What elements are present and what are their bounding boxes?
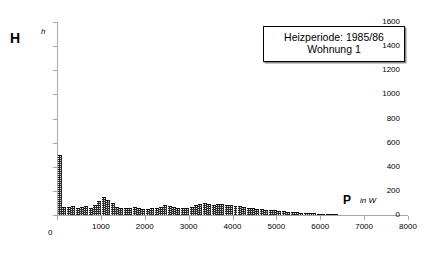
bar xyxy=(203,203,207,215)
bar xyxy=(216,204,220,215)
bar xyxy=(225,205,229,215)
bar xyxy=(234,206,238,215)
bar xyxy=(220,204,224,215)
bar xyxy=(299,213,303,215)
y-tick xyxy=(53,22,57,23)
x-tick xyxy=(233,216,234,220)
x-tick xyxy=(276,216,277,220)
bar xyxy=(67,207,71,215)
bar xyxy=(133,207,137,215)
bar xyxy=(71,206,75,215)
bar xyxy=(312,213,316,215)
bar xyxy=(102,197,106,215)
x-tick-label: 2000 xyxy=(128,222,162,231)
y-tick xyxy=(53,94,57,95)
x-tick-label: 3000 xyxy=(172,222,206,231)
bar xyxy=(84,206,88,215)
bar xyxy=(295,212,299,215)
y-tick xyxy=(53,70,57,71)
bar xyxy=(242,207,246,215)
x-tick xyxy=(145,216,146,220)
bar xyxy=(163,205,167,215)
x-tick xyxy=(320,216,321,220)
bar xyxy=(334,214,338,215)
x-tick-label: 6000 xyxy=(303,222,337,231)
bar xyxy=(80,207,84,215)
x-tick-label: 7000 xyxy=(347,222,381,231)
bar xyxy=(111,203,115,215)
bar xyxy=(269,210,273,215)
bar xyxy=(115,207,119,215)
y-axis-title: H xyxy=(10,30,20,46)
bar xyxy=(238,206,242,215)
bar xyxy=(304,213,308,215)
bar xyxy=(190,207,194,215)
bar xyxy=(229,205,233,215)
x-tick-label: 4000 xyxy=(216,222,250,231)
bar xyxy=(277,211,281,215)
bar xyxy=(291,212,295,215)
bar xyxy=(62,207,66,215)
bar xyxy=(146,209,150,216)
x-tick-label-zero: 0 xyxy=(48,228,52,237)
x-tick xyxy=(101,216,102,220)
x-tick-label: 5000 xyxy=(259,222,293,231)
bar xyxy=(185,208,189,215)
bar xyxy=(198,204,202,215)
plot-area: 02004006008001000120014001600 1000200030… xyxy=(57,22,408,216)
y-tick xyxy=(53,167,57,168)
bar xyxy=(128,208,132,215)
bar xyxy=(76,208,80,215)
bar xyxy=(119,208,123,215)
bar xyxy=(150,208,154,215)
bar xyxy=(260,209,264,215)
bar xyxy=(326,214,330,215)
bar xyxy=(330,214,334,215)
bar xyxy=(286,212,290,215)
bar xyxy=(264,210,268,215)
bar xyxy=(155,208,159,215)
bar xyxy=(172,207,176,215)
bar xyxy=(89,208,93,215)
bar xyxy=(317,214,321,215)
x-tick xyxy=(408,216,409,220)
bar xyxy=(321,214,325,215)
bar xyxy=(159,207,163,215)
y-tick xyxy=(53,119,57,120)
y-axis-unit: h xyxy=(41,27,45,36)
x-tick-label: 1000 xyxy=(84,222,118,231)
bar xyxy=(247,208,251,215)
bar xyxy=(137,208,141,215)
bar xyxy=(273,210,277,215)
y-tick xyxy=(53,143,57,144)
bar xyxy=(97,201,101,215)
bar xyxy=(251,208,255,215)
bar xyxy=(168,206,172,215)
bar xyxy=(308,213,312,215)
x-tick xyxy=(57,216,58,220)
x-tick-label: 8000 xyxy=(391,222,425,231)
bar xyxy=(181,208,185,215)
x-tick xyxy=(364,216,365,220)
y-tick xyxy=(53,46,57,47)
bar xyxy=(207,204,211,215)
bar xyxy=(124,208,128,215)
y-tick xyxy=(53,191,57,192)
bar xyxy=(106,200,110,215)
bar xyxy=(176,208,180,215)
bar xyxy=(255,209,259,216)
bar-series xyxy=(58,22,408,215)
bar xyxy=(141,209,145,215)
bar xyxy=(282,211,286,215)
bar xyxy=(212,205,216,215)
bar xyxy=(194,205,198,215)
bar xyxy=(58,155,62,215)
x-tick xyxy=(189,216,190,220)
chart-page: H h P in W Heizperiode: 1985/86 Wohnung … xyxy=(0,0,430,270)
bar xyxy=(93,205,97,215)
